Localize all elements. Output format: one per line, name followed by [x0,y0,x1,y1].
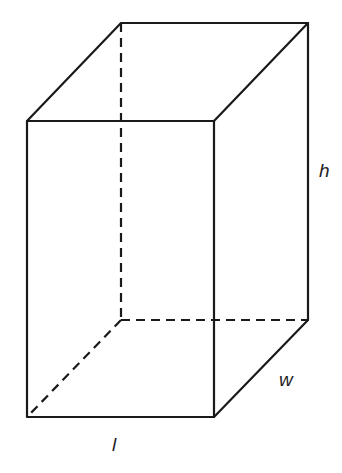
width-label: w [279,369,294,390]
hidden-bottom-depth-edge [27,320,121,417]
bottom-right-depth-edge [214,320,308,417]
rectangular-prism-diagram: h w l [0,0,342,473]
height-label: h [319,160,330,181]
hidden-edges [27,23,308,417]
top-face-edges [27,23,308,121]
length-label: l [112,434,117,455]
